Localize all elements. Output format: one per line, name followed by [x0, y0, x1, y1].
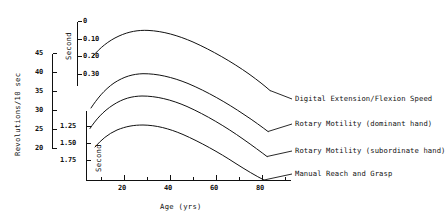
- x-tick-80: 80: [256, 185, 264, 192]
- y-inner-top-tick-0: 0: [83, 18, 87, 25]
- y-inner-bottom-tick-125: 1.25: [60, 123, 76, 130]
- x-tick-60: 60: [210, 185, 218, 192]
- y-inner-top-tick-030: 0.30: [83, 71, 99, 78]
- y-axis-left-line: [53, 54, 57, 149]
- y-inner-top-tick-020: 0.20: [83, 53, 99, 60]
- y-inner-top-tick-010: 0.10: [83, 36, 99, 43]
- curve-label-manual-reach-and-grasp: Manual Reach and Grasp: [295, 170, 392, 177]
- y-inner-bottom-tick-175: 1.75: [60, 157, 76, 164]
- leader-line-3: [267, 151, 292, 157]
- y-left-tick-40: 40: [35, 69, 43, 76]
- y-inner-bottom-tick-150: 1.50: [60, 140, 76, 147]
- curve-label-rotary-motility-dominant-hand: Rotary Motility (dominant hand): [295, 120, 432, 127]
- curve-manual-reach-and-grasp: [95, 125, 264, 180]
- y-left-tick-25: 25: [35, 126, 43, 133]
- x-tick-40: 40: [164, 185, 172, 192]
- x-tick-20: 20: [118, 185, 126, 192]
- y-axis-inner-bottom-line: [87, 111, 91, 181]
- leader-line-2: [268, 124, 292, 132]
- leader-line-4: [264, 174, 292, 180]
- leader-line-1: [270, 91, 292, 100]
- y-left-tick-35: 35: [35, 88, 43, 95]
- y-left-tick-45: 45: [35, 50, 43, 57]
- y-axis-inner-top-title: Second: [65, 32, 72, 60]
- curve-rotary-motility-subordinate-hand: [90, 96, 267, 157]
- y-axis-inner-bottom-title: Second: [95, 144, 102, 172]
- y-left-tick-20: 20: [35, 145, 43, 152]
- curve-label-rotary-motility-subordinate-hand: Rotary Motility (subordinate hand): [295, 147, 446, 154]
- y-axis-inner-top-line: [78, 22, 82, 86]
- y-left-tick-30: 30: [35, 107, 43, 114]
- y-axis-left-title: Revolutions/10 sec: [14, 73, 21, 156]
- curve-label-digital-extension-flexion-speed: Digital Extension/Flexion Speed: [295, 95, 432, 102]
- x-axis-title: Age (yrs): [160, 203, 202, 210]
